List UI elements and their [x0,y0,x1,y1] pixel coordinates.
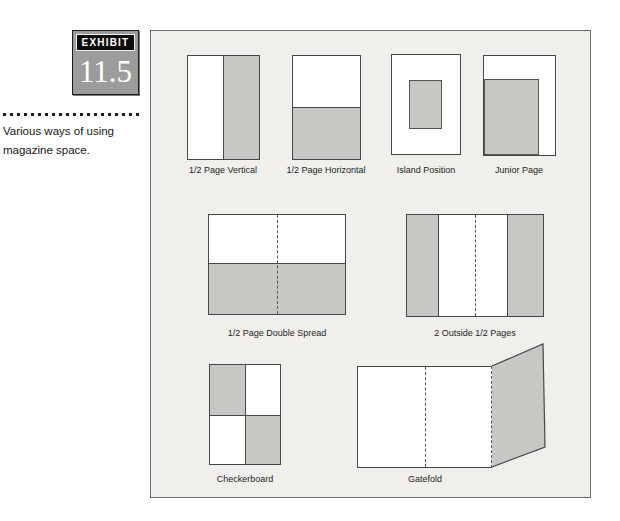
checker-horizontal-divider [210,415,280,416]
exhibit-badge: EXHIBIT 11.5 [72,30,139,95]
shaded-bottom-half [293,107,360,159]
diagram-island-position [391,54,461,155]
shaded-top-left-quadrant [210,365,245,415]
spine-fold-line [277,215,278,314]
exhibit-label: EXHIBIT [82,38,130,48]
shaded-right-half [223,56,259,159]
shaded-bottom-right-quadrant [245,415,280,465]
diagram-half-page-horizontal [292,55,361,160]
label-checkerboard: Checkerboard [183,473,307,485]
shaded-junior-block [484,79,539,155]
shaded-right-bar [507,215,543,316]
diagram-checkerboard [209,364,281,465]
gatefold-folded-panel [357,343,549,469]
spine-fold-line [475,215,476,316]
diagram-junior-page [483,55,556,156]
exhibit-caption: Various ways of using magazine space. [3,122,131,160]
label-two-outside-half-pages: 2 Outside 1/2 Pages [413,327,537,339]
label-half-page-double-spread: 1/2 Page Double Spread [215,327,339,339]
dotted-rule [3,113,140,116]
label-gatefold: Gatefold [363,473,487,485]
diagram-gatefold [357,343,549,469]
label-junior-page: Junior Page [457,164,581,176]
exhibit-badge-header: EXHIBIT [76,34,135,51]
shaded-island-block [409,80,442,129]
figure-panel: 1/2 Page Vertical 1/2 Page Horizontal Is… [150,30,591,498]
exhibit-number: 11.5 [73,52,138,92]
diagram-half-page-double-spread [208,214,346,315]
exhibit-page: EXHIBIT 11.5 Various ways of using magaz… [0,0,620,521]
diagram-half-page-vertical [187,55,260,160]
shaded-left-bar [407,215,439,316]
diagram-two-outside-half-pages [406,214,544,317]
